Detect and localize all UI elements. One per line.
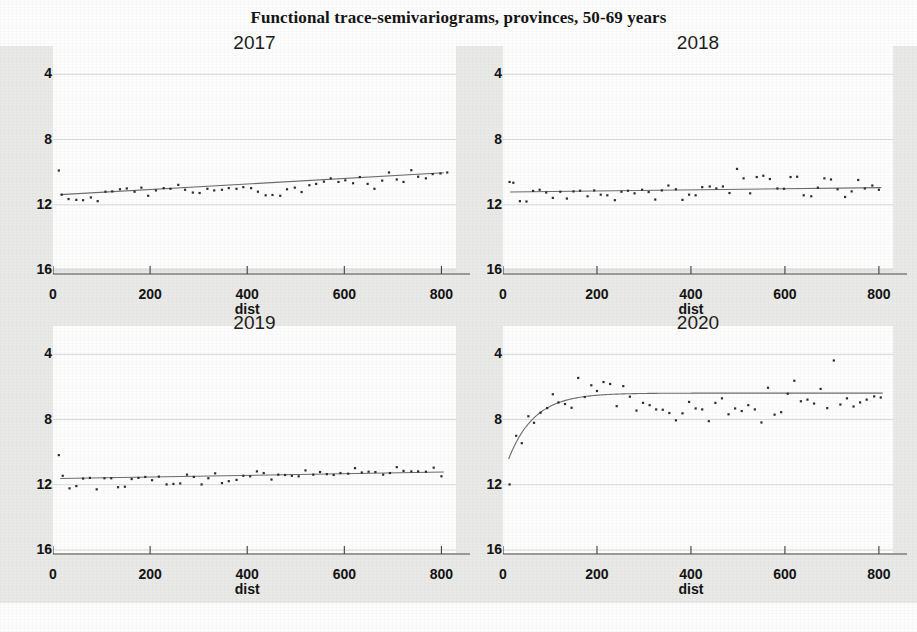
x-tick-label-800: 800 — [419, 286, 463, 302]
data-point — [803, 194, 805, 196]
data-point — [813, 402, 815, 404]
data-point — [337, 181, 339, 183]
data-point — [270, 478, 272, 480]
data-point — [339, 472, 341, 474]
x-tick-label-0: 0 — [481, 566, 525, 582]
data-point — [330, 177, 332, 179]
data-point — [193, 476, 195, 478]
data-point — [648, 191, 650, 193]
y-tick-label-4: 16 — [476, 541, 502, 557]
data-point — [681, 199, 683, 201]
data-point — [606, 194, 608, 196]
data-point — [242, 475, 244, 477]
data-point — [539, 189, 541, 191]
data-point — [213, 189, 215, 191]
data-point — [515, 435, 517, 437]
data-point — [169, 188, 171, 190]
data-point — [721, 397, 723, 399]
data-point — [701, 186, 703, 188]
data-point — [527, 415, 529, 417]
y-tick-label-4: 16 — [26, 541, 52, 557]
data-point — [661, 189, 663, 191]
data-point — [432, 173, 434, 175]
data-point — [747, 404, 749, 406]
data-point — [144, 476, 146, 478]
data-point — [103, 477, 105, 479]
data-point — [767, 387, 769, 389]
data-point — [736, 168, 738, 170]
data-point — [228, 187, 230, 189]
data-point — [708, 420, 710, 422]
data-point — [715, 187, 717, 189]
panel-title-2020: 2020 — [503, 312, 893, 334]
data-point — [347, 473, 349, 475]
data-point — [425, 471, 427, 473]
data-point — [333, 474, 335, 476]
data-point — [90, 196, 92, 198]
data-point — [817, 187, 819, 189]
x-tick-label-200: 200 — [575, 566, 619, 582]
data-point — [133, 191, 135, 193]
plot-area-2017 — [53, 58, 486, 292]
data-point — [616, 405, 618, 407]
data-point — [635, 409, 637, 411]
data-point — [117, 486, 119, 488]
data-point — [388, 171, 390, 173]
y-tick-label-12: 8 — [476, 411, 502, 427]
data-point — [172, 483, 174, 485]
data-point — [780, 411, 782, 413]
data-point — [367, 183, 369, 185]
data-point — [417, 470, 419, 472]
data-point — [709, 185, 711, 187]
data-point — [265, 194, 267, 196]
x-tick-label-200: 200 — [128, 286, 172, 302]
data-point — [773, 414, 775, 416]
data-point — [389, 472, 391, 474]
data-point — [839, 403, 841, 405]
data-point — [579, 190, 581, 192]
data-point — [200, 483, 202, 485]
x-tick-label-0: 0 — [31, 286, 75, 302]
data-point — [823, 177, 825, 179]
data-point — [315, 183, 317, 185]
data-point — [545, 191, 547, 193]
data-point — [111, 190, 113, 192]
x-tick-label-200: 200 — [128, 566, 172, 582]
data-point — [163, 187, 165, 189]
data-point — [396, 466, 398, 468]
data-point — [762, 175, 764, 177]
data-point — [642, 402, 644, 404]
y-tick-label-16: 4 — [476, 65, 502, 81]
data-point — [586, 195, 588, 197]
data-point — [352, 182, 354, 184]
data-point — [620, 191, 622, 193]
y-tick-label-8: 12 — [26, 476, 52, 492]
fitted-variogram-curve-2019 — [60, 472, 444, 479]
data-point — [214, 472, 216, 474]
data-point — [833, 359, 835, 361]
data-point — [304, 469, 306, 471]
data-point — [402, 470, 404, 472]
panel-title-2019: 2019 — [53, 312, 456, 334]
data-point — [440, 475, 442, 477]
data-point — [361, 471, 363, 473]
data-point — [508, 483, 510, 485]
data-point — [131, 478, 133, 480]
data-point — [298, 475, 300, 477]
data-point — [749, 192, 751, 194]
data-point — [221, 482, 223, 484]
y-tick-label-16: 4 — [476, 345, 502, 361]
data-point — [519, 200, 521, 202]
scan-band-left-top — [0, 46, 53, 286]
data-point — [826, 407, 828, 409]
data-point — [727, 413, 729, 415]
data-point — [277, 474, 279, 476]
data-point — [742, 177, 744, 179]
data-point — [374, 471, 376, 473]
data-point — [96, 488, 98, 490]
data-point — [410, 169, 412, 171]
data-point — [760, 421, 762, 423]
data-point — [89, 477, 91, 479]
data-point — [836, 188, 838, 190]
y-tick-label-8: 12 — [476, 476, 502, 492]
